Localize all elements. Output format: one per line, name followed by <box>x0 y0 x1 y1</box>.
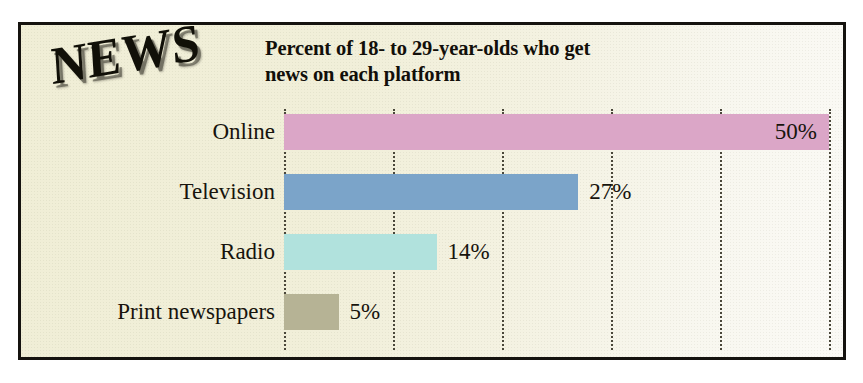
bar-category-label: Print newspapers <box>22 289 284 335</box>
bar-value-label: 5% <box>350 289 381 335</box>
bar-track <box>284 229 843 275</box>
chart-card: NEWS Percent of 18- to 29-year-olds who … <box>18 22 846 360</box>
bar-value-label: 27% <box>589 169 631 215</box>
bar-value-label: 50% <box>284 109 817 155</box>
bar-row: Print newspapers5% <box>21 289 843 335</box>
bar-row: Online50% <box>21 109 843 155</box>
plot-area: Online50%Television27%Radio14%Print news… <box>21 25 843 357</box>
bar-print-newspapers <box>284 294 339 330</box>
bar-category-label: Television <box>22 169 284 215</box>
bar-row: Radio14% <box>21 229 843 275</box>
bar-row: Television27% <box>21 169 843 215</box>
bar-value-label: 14% <box>448 229 490 275</box>
bar-category-label: Radio <box>22 229 284 275</box>
bar-television <box>284 174 578 210</box>
bar-radio <box>284 234 437 270</box>
bar-track <box>284 169 843 215</box>
bar-category-label: Online <box>22 109 284 155</box>
